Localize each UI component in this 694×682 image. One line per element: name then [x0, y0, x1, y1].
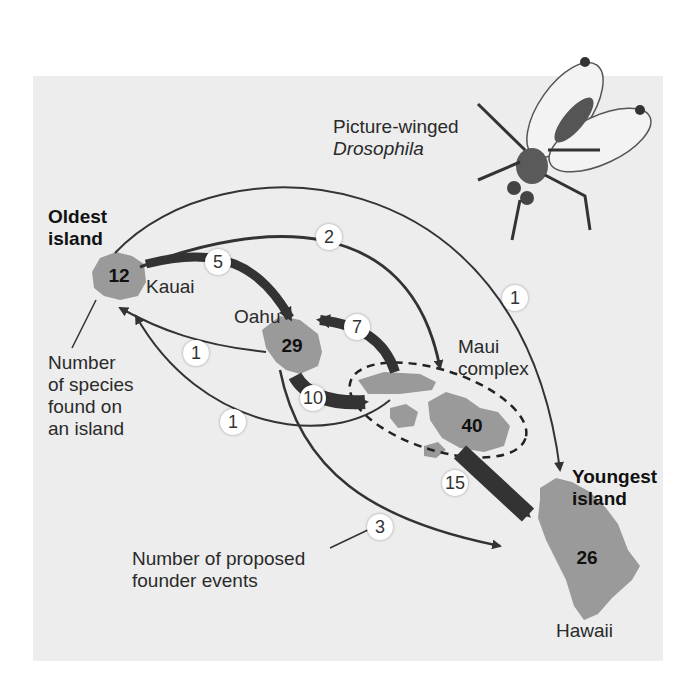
badge-oahu-to-hawaii: 3: [367, 514, 393, 540]
oldest-island-label: Oldestisland: [48, 206, 107, 250]
arrow-maui-to-hawaii: [460, 452, 528, 515]
kauai-species-count: 12: [108, 265, 129, 287]
oahu-label: Oahu: [234, 306, 280, 328]
diagram-graphics: [0, 0, 694, 682]
fly-label: Picture-wingedDrosophila: [333, 116, 459, 160]
founder-pointer: [330, 528, 372, 548]
drosophila-fly-illustration: [478, 50, 660, 240]
hawaii-species-count: 26: [576, 547, 597, 569]
maui-species-count: 40: [461, 415, 482, 437]
founder-caption: Number of proposedfounder events: [132, 548, 305, 592]
badge-maui-to-hawaii: 15: [442, 470, 468, 496]
molokai-island: [358, 372, 436, 394]
youngest-island-label: Youngestisland: [572, 466, 657, 510]
maui-complex-label: Mauicomplex: [458, 336, 529, 380]
species-caption: Numberof species found onan island: [48, 352, 134, 440]
oahu-species-count: 29: [281, 335, 302, 357]
kauai-label: Kauai: [146, 276, 195, 298]
badge-kauai-to-maui: 2: [316, 224, 342, 250]
hawaii-label: Hawaii: [556, 620, 613, 642]
badge-maui-to-oahu: 7: [344, 314, 370, 340]
badge-maui-to-kauai: 1: [220, 409, 246, 435]
species-pointer: [72, 300, 96, 348]
kahoolawe-island: [424, 442, 446, 458]
lanai-island: [390, 404, 418, 428]
badge-kauai-to-oahu: 5: [205, 249, 231, 275]
badge-oahu-to-maui: 10: [300, 385, 326, 411]
badge-oahu-to-kauai: 1: [183, 340, 209, 366]
badge-kauai-to-hawaii: 1: [502, 285, 528, 311]
